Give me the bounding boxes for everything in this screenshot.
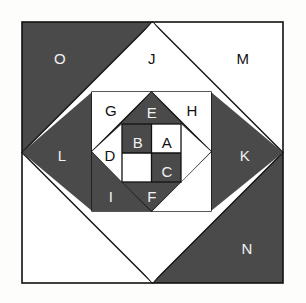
region-C-shape [152, 153, 182, 182]
geometry-canvas [0, 0, 306, 303]
geometric-figure: A B C D E F G H I J K L M N O [0, 0, 306, 303]
checkerboard-bottom-left-cell [122, 153, 152, 182]
region-A-shape [152, 124, 182, 153]
region-B-shape [122, 124, 152, 153]
